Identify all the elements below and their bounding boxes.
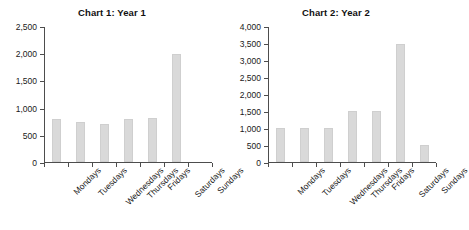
- x-tick-labels-chart-1: MondaysTuesdaysWednesdaysThursdaysFriday…: [44, 166, 212, 226]
- bar: [124, 119, 133, 162]
- page-title-2: Chart 2: Year 2: [224, 7, 448, 18]
- bar: [420, 145, 429, 162]
- bar: [76, 122, 85, 163]
- bar: [100, 124, 109, 162]
- y-axis-tick: [264, 27, 268, 28]
- y-axis-tick: [40, 136, 44, 137]
- y-axis-tick-label: 1,000: [240, 124, 261, 134]
- bar: [148, 118, 157, 162]
- bar: [348, 111, 357, 162]
- plot-area-chart-2: 05001,0001,5002,0002,5003,0003,5004,000: [268, 27, 436, 163]
- plot-area-chart-1: 05001,0001,5002,0002,500: [44, 27, 212, 163]
- y-axis-tick: [264, 146, 268, 147]
- y-axis-tick: [264, 44, 268, 45]
- bar: [52, 119, 61, 162]
- x-axis-line: [268, 162, 436, 163]
- y-axis-tick-label: 3,000: [240, 56, 261, 66]
- y-axis-tick: [264, 95, 268, 96]
- y-axis-tick-label: 2,500: [240, 73, 261, 83]
- bar: [372, 111, 381, 162]
- x-axis-tick: [436, 163, 437, 167]
- x-axis-tick: [212, 163, 213, 167]
- y-axis-tick-label: 1,500: [240, 107, 261, 117]
- y-axis-tick-label: 0: [256, 158, 261, 168]
- x-tick-labels-chart-2: MondaysTuesdaysWednesdaysThursdaysFriday…: [268, 166, 436, 226]
- y-axis-tick: [264, 112, 268, 113]
- y-axis-tick: [264, 129, 268, 130]
- bar-series-chart-1: [44, 27, 212, 162]
- y-axis-tick: [264, 61, 268, 62]
- y-axis-tick: [40, 27, 44, 28]
- y-axis-tick-label: 1,000: [16, 104, 37, 114]
- bar: [172, 54, 181, 162]
- chart-panel-1: Chart 1: Year 1 05001,0001,5002,0002,500…: [0, 0, 224, 230]
- bar-series-chart-2: [268, 27, 436, 162]
- y-axis-tick: [40, 109, 44, 110]
- bar: [300, 128, 309, 162]
- y-axis-tick-label: 2,500: [16, 22, 37, 32]
- x-axis-line: [44, 162, 212, 163]
- y-axis-tick-label: 500: [247, 141, 261, 151]
- y-axis-tick-label: 1,500: [16, 76, 37, 86]
- y-axis-tick-label: 4,000: [240, 22, 261, 32]
- bar: [324, 128, 333, 162]
- y-axis-tick-label: 500: [23, 131, 37, 141]
- y-axis-tick: [264, 78, 268, 79]
- chart-panel-2: Chart 2: Year 2 05001,0001,5002,0002,500…: [224, 0, 448, 230]
- y-axis-tick-label: 2,000: [16, 49, 37, 59]
- bar: [396, 44, 405, 162]
- y-axis-tick: [40, 54, 44, 55]
- y-axis-tick-label: 3,500: [240, 39, 261, 49]
- y-axis-tick-label: 0: [32, 158, 37, 168]
- bar: [276, 128, 285, 162]
- y-axis-tick: [40, 81, 44, 82]
- y-axis-tick-label: 2,000: [240, 90, 261, 100]
- page-title: Chart 1: Year 1: [0, 7, 224, 18]
